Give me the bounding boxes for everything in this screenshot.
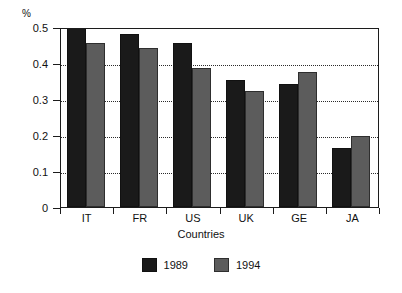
y-axis-tick <box>53 172 60 173</box>
y-axis-tick-label: 0.2 <box>6 131 48 142</box>
x-axis-tick <box>60 208 61 214</box>
gridline <box>61 173 378 174</box>
chart-legend: 19891994 <box>0 258 402 272</box>
legend-swatch-1994 <box>214 258 229 272</box>
x-axis-label-uk: UK <box>226 212 266 224</box>
y-axis-tick-label: 0.1 <box>6 167 48 178</box>
gridline <box>61 101 378 102</box>
x-axis-label-fr: FR <box>120 212 160 224</box>
x-axis-label-it: IT <box>67 212 107 224</box>
bar-chart-figure: % 00.10.20.30.40.5 ITFRUSUKGEJA Countrie… <box>0 0 402 293</box>
x-axis-tick <box>113 208 114 214</box>
plot-area <box>60 28 379 208</box>
y-axis-tick-label: 0.4 <box>6 59 48 70</box>
bar-fr-1989 <box>120 34 139 207</box>
bar-ja-1994 <box>351 136 370 207</box>
x-axis-label-us: US <box>173 212 213 224</box>
y-axis-tick-label: 0 <box>6 203 48 214</box>
bar-ja-1989 <box>332 148 351 207</box>
bar-us-1994 <box>192 68 211 207</box>
bar-ge-1989 <box>279 84 298 207</box>
legend-label-1994: 1994 <box>236 259 260 271</box>
legend-swatch-1989 <box>142 258 157 272</box>
y-axis-tick <box>53 28 60 29</box>
bar-it-1994 <box>86 43 105 207</box>
bar-fr-1994 <box>139 48 158 207</box>
y-axis-tick <box>53 208 60 209</box>
y-axis-tick <box>53 136 60 137</box>
x-axis-tick <box>220 208 221 214</box>
bar-uk-1994 <box>245 91 264 207</box>
legend-item-1994: 1994 <box>214 258 260 272</box>
y-axis-tick-label: 0.5 <box>6 23 48 34</box>
x-axis-tick <box>326 208 327 214</box>
bar-ge-1994 <box>298 72 317 207</box>
x-axis-tick <box>379 208 380 214</box>
x-axis-label-ja: JA <box>332 212 372 224</box>
gridline <box>61 137 378 138</box>
legend-label-1989: 1989 <box>164 259 188 271</box>
bar-us-1989 <box>173 43 192 207</box>
plot-inner <box>61 29 378 207</box>
y-axis-tick <box>53 64 60 65</box>
x-axis-title: Countries <box>0 228 402 240</box>
y-axis-tick <box>53 100 60 101</box>
x-axis-tick <box>166 208 167 214</box>
x-axis-tick <box>273 208 274 214</box>
gridline <box>61 65 378 66</box>
y-axis-tick-label: 0.3 <box>6 95 48 106</box>
bar-uk-1989 <box>226 80 245 207</box>
y-axis-unit-label: % <box>22 8 31 19</box>
bar-it-1989 <box>67 29 86 207</box>
x-axis-label-ge: GE <box>279 212 319 224</box>
legend-item-1989: 1989 <box>142 258 188 272</box>
